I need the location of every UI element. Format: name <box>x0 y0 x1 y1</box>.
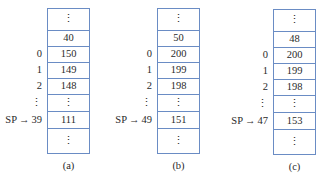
cell-value: 199 <box>287 66 303 77</box>
cell-value: 40 <box>63 33 74 44</box>
cell-value: ⋮ <box>63 136 74 147</box>
stack-cell: 148 <box>47 78 90 95</box>
cell-value: 111 <box>61 115 76 126</box>
cell-value: 198 <box>287 82 303 93</box>
sp-text: SP <box>5 114 17 125</box>
panel-caption: (c) <box>273 161 316 172</box>
cell-value: ⋮ <box>173 136 184 147</box>
cell-value: ⋮ <box>173 14 184 25</box>
index-label: 1 <box>263 66 268 77</box>
cell-value: 149 <box>61 65 77 76</box>
index-label: 2 <box>147 81 152 92</box>
stack-cell: 200 <box>157 46 200 63</box>
index-label: 2 <box>263 82 268 93</box>
cell-value: 153 <box>287 116 303 127</box>
stack-cell: 198 <box>157 78 200 95</box>
sp-text: SP <box>115 114 127 125</box>
cell-value: 150 <box>61 49 77 60</box>
index-label: 1 <box>37 65 42 76</box>
stack-cell: 153 <box>273 112 316 130</box>
index-value: 39 <box>32 114 43 125</box>
stack-cell: 149 <box>47 62 90 79</box>
index-label: ⋮ <box>257 99 268 110</box>
cell-value: ⋮ <box>289 137 300 148</box>
stack-cell: 150 <box>47 46 90 63</box>
stack-pointer-label: SP→39 <box>5 115 42 126</box>
stack-cell: ⋮ <box>273 129 316 155</box>
stack-pointer-label: SP→49 <box>115 115 152 126</box>
cell-value: 200 <box>287 50 303 61</box>
cell-value: ⋮ <box>289 99 300 110</box>
stack-cell: 50 <box>157 30 200 47</box>
index-value: 47 <box>258 115 269 126</box>
stack-cell: ⋮ <box>273 95 316 113</box>
cell-value: 50 <box>173 33 184 44</box>
index-label: ⋮ <box>31 98 42 109</box>
panel-caption: (b) <box>157 160 200 171</box>
arrow-right-icon: → <box>129 114 140 125</box>
stack-cell: ⋮ <box>47 8 90 31</box>
arrow-right-icon: → <box>245 115 256 126</box>
index-label: 0 <box>147 49 152 60</box>
stack-cell: 151 <box>157 111 200 129</box>
stack-cell: 199 <box>273 63 316 80</box>
cell-value: 148 <box>61 81 77 92</box>
cell-value: 151 <box>171 115 187 126</box>
stack-cell: 200 <box>273 47 316 64</box>
index-label: 0 <box>37 49 42 60</box>
stack-cell: 199 <box>157 62 200 79</box>
index-label: 1 <box>147 65 152 76</box>
stack-cell: 48 <box>273 31 316 48</box>
cell-value: 200 <box>171 49 187 60</box>
stack-cell: 111 <box>47 111 90 129</box>
cell-value: 48 <box>289 34 300 45</box>
stack-cell: ⋮ <box>47 128 90 154</box>
stack-cell: ⋮ <box>157 94 200 112</box>
stack-cell: ⋮ <box>273 9 316 32</box>
cell-value: ⋮ <box>289 15 300 26</box>
sp-text: SP <box>231 115 243 126</box>
cell-value: ⋮ <box>173 98 184 109</box>
cell-value: ⋮ <box>63 14 74 25</box>
index-label: 2 <box>37 81 42 92</box>
cell-value: 198 <box>171 81 187 92</box>
index-label: ⋮ <box>141 98 152 109</box>
arrow-right-icon: → <box>19 114 30 125</box>
index-label: 0 <box>263 50 268 61</box>
stack-pointer-label: SP→47 <box>231 116 268 127</box>
cell-value: 199 <box>171 65 187 76</box>
stack-cell: 198 <box>273 79 316 96</box>
stack-cell: ⋮ <box>157 128 200 154</box>
stack-cell: ⋮ <box>47 94 90 112</box>
stack-cell: ⋮ <box>157 8 200 31</box>
cell-value: ⋮ <box>63 98 74 109</box>
panel-caption: (a) <box>47 160 90 171</box>
index-value: 49 <box>142 114 153 125</box>
stack-cell: 40 <box>47 30 90 47</box>
